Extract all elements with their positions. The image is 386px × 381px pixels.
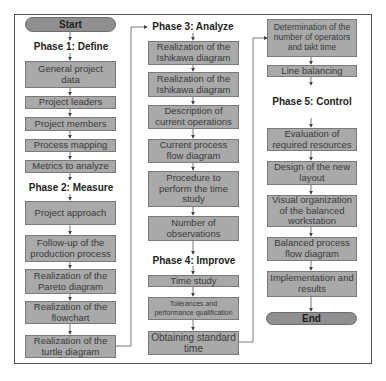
process-new-layout: Design of the new layout — [267, 161, 357, 185]
process-project-members: Project members — [25, 117, 116, 131]
process-implementation-results: Implementation and results — [267, 271, 357, 297]
phase-4-improve: Phase 4: Improve — [150, 255, 238, 267]
process-balanced-flow-diagram: Balanced process flow diagram — [267, 237, 357, 261]
process-process-mapping: Process mapping — [25, 139, 116, 152]
end-terminal: End — [266, 312, 357, 325]
phase-5-control: Phase 5: Control — [272, 86, 352, 118]
phase-label: Phase 1: Define — [34, 41, 108, 53]
process-operators-takt-time: Determination of the number of operators… — [267, 19, 357, 57]
process-ishikawa-1: Realization of the Ishikawa diagram — [148, 41, 239, 65]
phase-label: Phase 2: Measure — [29, 182, 114, 194]
phase-2-measure: Phase 2: Measure — [27, 181, 115, 194]
start-terminal: Start — [25, 17, 116, 32]
process-project-leaders: Project leaders — [25, 96, 116, 109]
process-ishikawa-2: Realization of the Ishikawa diagram — [148, 72, 239, 97]
process-line-balancing: Line balancing — [267, 65, 357, 77]
process-tolerances-performance: Tolerances and performance qualification — [148, 297, 239, 320]
process-pareto-diagram: Realization of the Pareto diagram — [25, 269, 116, 294]
phase-label: Phase 3: Analyze — [152, 21, 233, 33]
process-time-study-procedure: Procedure to perform the time study — [148, 171, 239, 207]
process-number-of-observations: Number of observations — [148, 216, 239, 241]
process-general-project-data: General project data — [25, 61, 116, 88]
process-flowchart: Realization of the flowchart — [25, 301, 116, 324]
process-follow-up-production: Follow-up of the production process — [25, 235, 116, 262]
phase-1-define: Phase 1: Define — [27, 41, 115, 53]
process-standard-time: Obtaining standard time — [148, 331, 239, 355]
process-time-study: Time study — [148, 275, 239, 287]
process-turtle-diagram: Realization of the turtle diagram — [25, 335, 116, 358]
process-required-resources: Evaluation of required resources — [267, 128, 357, 151]
process-current-operations: Description of current operations — [148, 105, 239, 129]
phase-label: Phase 4: Improve — [153, 255, 236, 267]
process-metrics-to-analyze: Metrics to analyze — [25, 160, 116, 173]
process-current-flow-diagram: Current process flow diagram — [148, 139, 239, 163]
phase-label: Phase 5: Control — [272, 96, 351, 108]
phase-3-analyze: Phase 3: Analyze — [149, 21, 237, 33]
process-visual-organization: Visual organization of the balanced work… — [267, 195, 357, 227]
process-project-approach: Project approach — [25, 201, 116, 225]
